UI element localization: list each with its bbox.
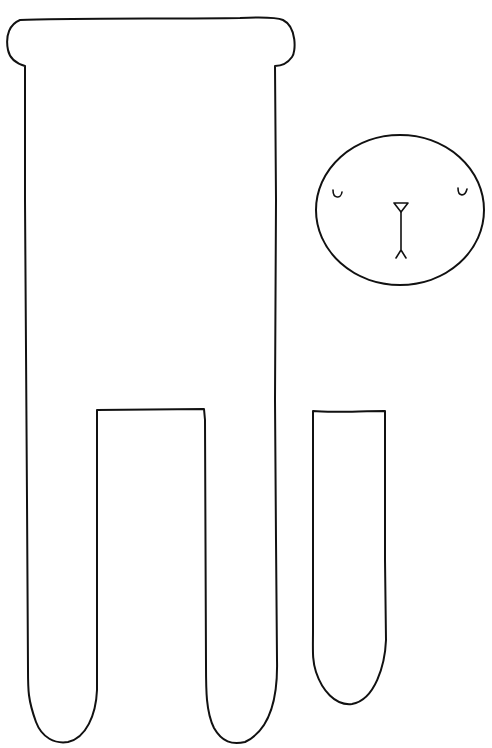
figure-description: Hand-drawn sewing/craft pattern template… <box>0 0 1 1</box>
head-piece <box>316 135 484 285</box>
pattern-drawing <box>0 0 492 748</box>
body-piece <box>7 17 294 743</box>
arm-piece <box>313 411 386 704</box>
pattern-canvas: Hand-drawn sewing/craft pattern template… <box>0 0 492 748</box>
